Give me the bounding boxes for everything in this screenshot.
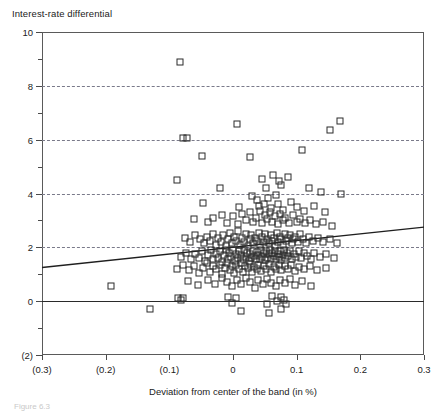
data-point	[190, 216, 197, 223]
data-point	[223, 220, 230, 227]
data-point	[179, 294, 186, 301]
data-point	[247, 154, 254, 161]
data-point	[336, 117, 343, 124]
data-point	[186, 238, 193, 245]
x-tick	[42, 355, 43, 360]
data-point	[322, 264, 329, 271]
data-point	[333, 240, 340, 247]
data-point	[146, 305, 153, 312]
data-point	[233, 120, 240, 127]
data-point	[312, 221, 319, 228]
x-tick	[360, 355, 361, 360]
data-point	[310, 202, 317, 209]
data-point	[301, 207, 308, 214]
x-tick-label: (0.1)	[160, 364, 180, 375]
data-point	[293, 203, 300, 210]
data-point	[319, 218, 326, 225]
data-point	[204, 276, 211, 283]
y-tick-label: (2)	[21, 350, 33, 361]
regression-line	[42, 32, 424, 355]
data-point	[314, 267, 321, 274]
x-tick	[106, 355, 107, 360]
figure-caption: Figure 6.3	[14, 402, 50, 411]
data-point	[266, 310, 273, 317]
data-point	[322, 209, 329, 216]
plot-area: (2)0246810 (0.3)(0.2)(0.1)00.10.20.3	[42, 32, 424, 355]
data-point	[298, 147, 305, 154]
data-point	[326, 236, 333, 243]
data-point	[200, 199, 207, 206]
data-point	[263, 300, 270, 307]
data-point	[273, 191, 280, 198]
data-point	[326, 127, 333, 134]
data-point	[307, 282, 314, 289]
data-point	[108, 283, 115, 290]
x-tick-label: (0.3)	[32, 364, 52, 375]
data-point	[194, 282, 201, 289]
y-tick-label: 2	[28, 242, 33, 253]
data-point	[198, 152, 205, 159]
data-point	[259, 175, 266, 182]
x-tick-label: 0	[230, 364, 235, 375]
data-point	[229, 283, 236, 290]
data-point	[338, 190, 345, 197]
data-point	[286, 220, 293, 227]
figure-container: Interest-rate differential (2)0246810 (0…	[0, 0, 447, 417]
data-point	[307, 262, 314, 269]
data-point	[218, 212, 225, 219]
data-point	[272, 283, 279, 290]
data-point	[292, 282, 299, 289]
data-point	[173, 177, 180, 184]
x-tick-label: 0.3	[417, 364, 430, 375]
x-tick-label: 0.1	[290, 364, 303, 375]
x-tick	[169, 355, 170, 360]
x-tick	[297, 355, 298, 360]
data-point	[322, 251, 329, 258]
y-tick-label: 6	[28, 134, 33, 145]
x-tick-label: 0.2	[354, 364, 367, 375]
data-point	[317, 189, 324, 196]
data-point	[210, 214, 217, 221]
y-tick-label: 8	[28, 80, 33, 91]
data-point	[251, 284, 258, 291]
data-point	[176, 58, 183, 65]
data-point	[303, 240, 310, 247]
data-point	[230, 213, 237, 220]
x-tick-label: (0.2)	[96, 364, 116, 375]
y-tick-label: 10	[22, 27, 33, 38]
data-point	[233, 295, 240, 302]
data-point	[183, 135, 190, 142]
data-point	[216, 185, 223, 192]
y-tick-label: 0	[28, 296, 33, 307]
data-point	[238, 307, 245, 314]
x-axis-title: Deviation from center of the band (in %)	[42, 386, 424, 397]
data-point	[278, 182, 285, 189]
data-point	[305, 185, 312, 192]
data-point	[299, 277, 306, 284]
data-point	[284, 174, 291, 181]
data-point	[282, 301, 289, 308]
x-tick	[233, 355, 234, 360]
data-point	[265, 194, 272, 201]
data-point	[185, 277, 192, 284]
x-tick	[424, 355, 425, 360]
data-point	[329, 222, 336, 229]
data-point	[263, 185, 270, 192]
data-point	[330, 255, 337, 262]
chart-title: Interest-rate differential	[12, 8, 112, 19]
y-tick-label: 4	[28, 188, 33, 199]
